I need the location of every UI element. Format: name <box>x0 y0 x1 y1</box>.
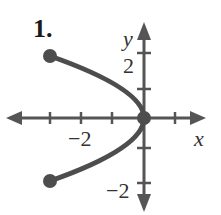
arrow-down-icon <box>137 194 151 212</box>
arrow-right-icon <box>190 111 206 125</box>
x-axis <box>6 111 206 125</box>
y-tick-label-neg2: −2 <box>106 180 129 202</box>
x-tick-label-neg2: −2 <box>68 128 91 150</box>
endpoint-top <box>43 49 57 63</box>
x-axis-label: x <box>194 128 204 150</box>
arrow-up-icon <box>137 22 151 40</box>
y-tick-label-2: 2 <box>123 55 134 77</box>
problem-number: 1. <box>33 16 53 42</box>
arrow-left-icon <box>6 111 22 125</box>
endpoint-bottom <box>43 174 57 188</box>
y-axis-label: y <box>123 28 133 50</box>
vertex-point <box>137 111 151 125</box>
